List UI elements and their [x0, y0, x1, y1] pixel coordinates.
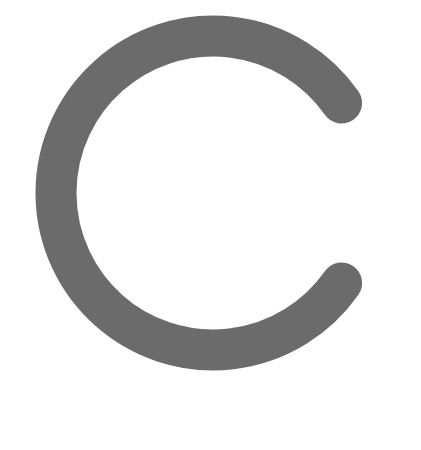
c-arc-icon — [0, 0, 421, 450]
c-arc-shape — [56, 36, 342, 350]
canvas — [0, 0, 421, 450]
